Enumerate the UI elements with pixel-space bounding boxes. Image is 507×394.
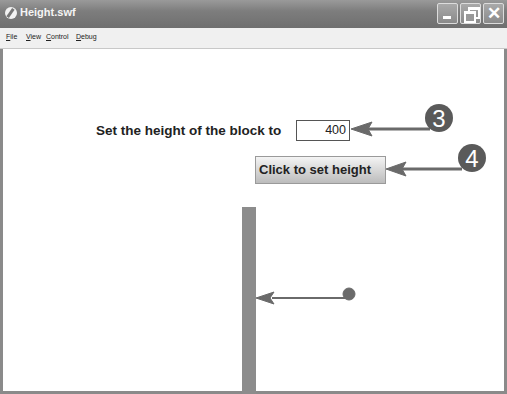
callout-badge-3: 3 [425, 104, 453, 132]
callout-badge-4: 4 [458, 144, 486, 172]
callout-arrows [0, 0, 507, 394]
